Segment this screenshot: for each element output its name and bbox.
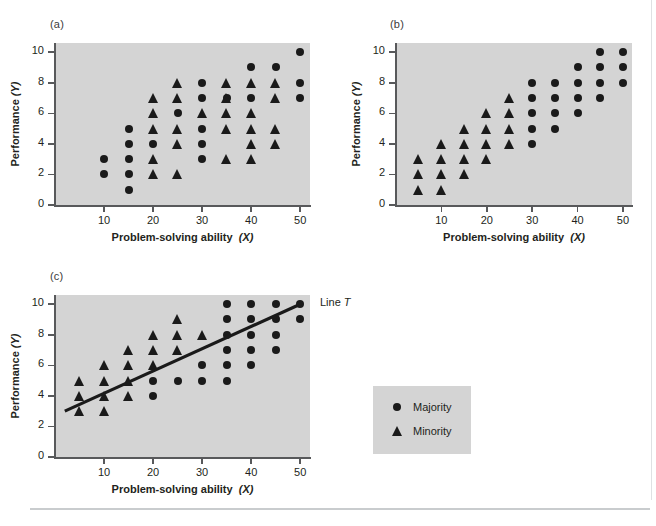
line-t-annotation: Line T — [320, 296, 351, 308]
page-divider-rule — [30, 508, 650, 510]
page-right-edge-rule — [651, 0, 652, 500]
legend-box: Majority Minority — [373, 386, 471, 454]
line-label-text: Line — [320, 296, 341, 308]
legend-item-minority: Minority — [390, 424, 452, 438]
regression-line-svg — [0, 0, 656, 526]
circle-marker-icon — [390, 403, 404, 411]
regression-line — [65, 304, 300, 411]
legend-item-majority: Majority — [390, 400, 452, 414]
triangle-marker-icon — [390, 426, 404, 436]
line-label-var: T — [344, 296, 351, 308]
legend-label-majority: Majority — [413, 401, 452, 413]
legend-label-minority: Minority — [413, 425, 452, 437]
